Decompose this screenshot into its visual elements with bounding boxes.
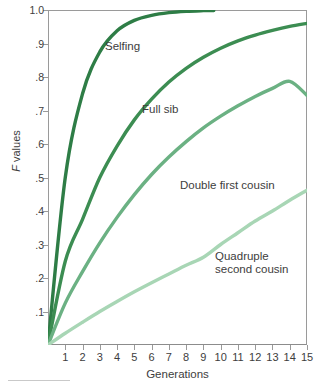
y-tick-label: 1.0 <box>4 5 44 15</box>
y-tick-label: .8 <box>4 72 44 82</box>
x-tick-mark <box>117 345 118 350</box>
x-tick-mark <box>290 345 291 350</box>
x-tick-mark <box>134 345 135 350</box>
series-label-quadruple-second-cousin: Quadruple second cousin <box>215 250 289 276</box>
y-tick-label: .3 <box>4 240 44 250</box>
y-axis-title-text: values <box>10 130 22 165</box>
x-tick-mark <box>238 345 239 350</box>
curves-layer <box>48 10 307 345</box>
x-tick-mark <box>169 345 170 350</box>
x-tick-mark <box>221 345 222 350</box>
figure-container: 1.0.9.8.7.6.5.4.3.2.1 F values 123456789… <box>0 0 321 390</box>
series-label-double-first-cousin: Double first cousin <box>180 179 275 192</box>
series-label-selfing: Selfing <box>105 40 140 53</box>
x-tick-mark <box>152 345 153 350</box>
x-tick-mark <box>100 345 101 350</box>
y-tick-label: .9 <box>4 39 44 49</box>
y-tick-label: .1 <box>4 307 44 317</box>
footer-divider <box>8 380 70 381</box>
x-tick-mark <box>186 345 187 350</box>
x-tick-mark <box>272 345 273 350</box>
y-axis-title-symbol: F <box>10 165 22 172</box>
series-label-full-sib: Full sib <box>142 103 178 116</box>
y-tick-label: .2 <box>4 273 44 283</box>
x-tick-label: 15 <box>295 351 319 363</box>
x-tick-mark <box>65 345 66 350</box>
x-axis-title: Generations <box>48 368 307 380</box>
x-tick-mark <box>83 345 84 350</box>
x-tick-mark <box>307 345 308 350</box>
x-tick-mark <box>203 345 204 350</box>
y-axis-title: F values <box>10 111 22 191</box>
x-tick-mark <box>255 345 256 350</box>
y-tick-label: .4 <box>4 206 44 216</box>
